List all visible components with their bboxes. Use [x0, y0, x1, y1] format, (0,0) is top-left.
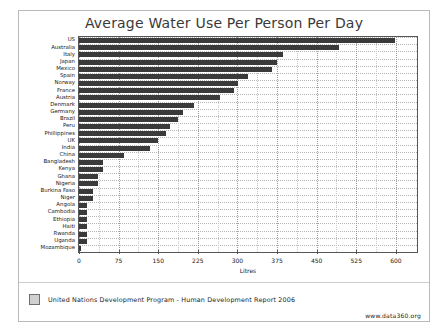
category-label: UK — [68, 137, 75, 143]
category-label: Peru — [63, 122, 75, 128]
chart-card: Average Water Use Per Person Per Day USA… — [18, 10, 430, 322]
source-website: www.data360.org — [365, 312, 421, 319]
x-tick-mark — [356, 250, 357, 254]
grid-line-horizontal — [79, 245, 417, 246]
category-label: Australia — [51, 44, 75, 50]
plot-inner — [79, 37, 417, 252]
x-tick-mark — [79, 250, 80, 254]
category-label: Haiti — [63, 223, 75, 229]
x-tick-mark — [198, 250, 199, 254]
category-label: Spain — [60, 72, 75, 78]
category-label: Bangladesh — [43, 158, 75, 164]
grid-line-horizontal — [79, 209, 417, 210]
x-tick-label: 0 — [77, 257, 81, 264]
bar — [79, 138, 158, 143]
category-label: Kenya — [59, 165, 76, 171]
category-label: Burkina Faso — [41, 187, 75, 193]
category-label: Denmark — [50, 101, 75, 107]
grid-line-vertical — [277, 37, 278, 252]
bar — [79, 181, 98, 186]
bar — [79, 153, 124, 158]
x-tick-label: 525 — [351, 257, 362, 264]
plot-area — [78, 36, 418, 253]
grid-line-horizontal — [79, 216, 417, 217]
bar — [79, 239, 87, 244]
screenshot-root: Average Water Use Per Person Per Day USA… — [0, 0, 448, 333]
x-tick-mark — [158, 250, 159, 254]
bar — [79, 95, 220, 100]
category-label: Norway — [55, 79, 75, 85]
category-label: Uganda — [54, 237, 75, 243]
x-tick-label: 450 — [311, 257, 322, 264]
grid-line-vertical-minor — [297, 37, 298, 252]
x-tick-mark — [396, 250, 397, 254]
category-label: Austria — [56, 94, 75, 100]
category-label: India — [62, 144, 75, 150]
category-label: Angola — [56, 201, 75, 207]
category-label: Cambodia — [48, 208, 75, 214]
grid-line-horizontal — [79, 152, 417, 153]
x-tick-mark — [237, 250, 238, 254]
bar — [79, 110, 183, 115]
x-tick-mark — [277, 250, 278, 254]
bar — [79, 88, 234, 93]
chart-footer: United Nations Development Program - Hum… — [19, 284, 429, 323]
chart-title: Average Water Use Per Person Per Day — [19, 15, 429, 31]
bar — [79, 131, 166, 136]
x-tick-label: 300 — [232, 257, 243, 264]
grid-line-horizontal — [79, 180, 417, 181]
bar — [79, 117, 178, 122]
bar — [79, 67, 272, 72]
grid-line-horizontal — [79, 195, 417, 196]
x-tick-label: 75 — [115, 257, 123, 264]
bar — [79, 52, 283, 57]
category-label: Brazil — [60, 115, 75, 121]
grid-line-horizontal — [79, 173, 417, 174]
category-axis-labels: USAustraliaItalyJapanMexicoSpainNorwayFr… — [19, 36, 77, 253]
grid-line-horizontal — [79, 166, 417, 167]
category-label: Ghana — [57, 173, 75, 179]
bar — [79, 45, 339, 50]
bar — [79, 103, 194, 108]
legend: United Nations Development Program - Hum… — [29, 294, 295, 305]
category-label: Rwanda — [53, 230, 75, 236]
legend-swatch-icon — [29, 294, 40, 305]
bar — [79, 217, 87, 222]
bar — [79, 38, 395, 43]
category-label: Japan — [60, 58, 75, 64]
bar — [79, 189, 93, 194]
x-tick-label: 150 — [152, 257, 163, 264]
category-label: Italy — [63, 51, 75, 57]
category-label: China — [60, 151, 75, 157]
grid-line-horizontal — [79, 202, 417, 203]
bar — [79, 196, 93, 201]
x-tick-mark — [317, 250, 318, 254]
category-label: Phillippines — [44, 130, 75, 136]
bar — [79, 174, 98, 179]
grid-line-vertical — [356, 37, 357, 252]
chart-pane: Average Water Use Per Person Per Day USA… — [19, 11, 429, 283]
category-label: Mozambique — [41, 244, 75, 250]
x-axis-title: Litres — [78, 267, 418, 274]
bar — [79, 124, 170, 129]
bar — [79, 203, 87, 208]
bar — [79, 224, 87, 229]
category-label: Mexico — [56, 65, 75, 71]
grid-line-horizontal — [79, 159, 417, 160]
bar — [79, 210, 87, 215]
bar — [79, 160, 103, 165]
grid-line-horizontal — [79, 231, 417, 232]
grid-line-horizontal — [79, 223, 417, 224]
x-tick-mark — [119, 250, 120, 254]
grid-line-vertical-minor — [336, 37, 337, 252]
category-label: France — [57, 87, 75, 93]
grid-line-horizontal — [79, 238, 417, 239]
bar — [79, 81, 238, 86]
category-label: US — [68, 36, 75, 42]
bar — [79, 74, 248, 79]
grid-line-horizontal — [79, 188, 417, 189]
legend-label: United Nations Development Program - Hum… — [48, 296, 295, 304]
category-label: Germany — [50, 108, 75, 114]
bar — [79, 60, 277, 65]
grid-line-vertical — [396, 37, 397, 252]
